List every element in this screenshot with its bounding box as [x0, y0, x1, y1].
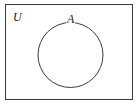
universe-label: U — [13, 11, 22, 23]
set-a-label: A — [66, 13, 75, 25]
venn-diagram-figure: U A — [0, 0, 139, 108]
